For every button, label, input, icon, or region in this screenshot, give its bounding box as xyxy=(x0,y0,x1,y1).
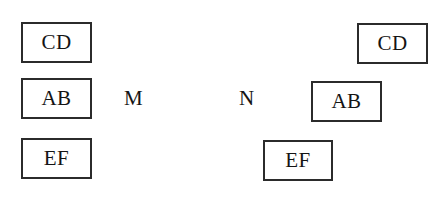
box-label: AB xyxy=(331,91,361,112)
box-left-cd: CD xyxy=(21,22,92,63)
marker-label-m: M xyxy=(124,88,143,109)
diagram-canvas: CD AB EF M N CD AB EF xyxy=(0,0,438,204)
box-label: EF xyxy=(285,150,311,171)
box-label: CD xyxy=(377,33,407,54)
box-label: CD xyxy=(41,32,71,53)
box-right-ab: AB xyxy=(311,81,382,122)
box-right-ef: EF xyxy=(263,140,333,181)
marker-label-n: N xyxy=(239,88,254,109)
box-left-ab: AB xyxy=(21,78,92,119)
box-left-ef: EF xyxy=(21,138,92,179)
box-right-cd: CD xyxy=(357,23,428,64)
box-label: AB xyxy=(41,88,71,109)
box-label: EF xyxy=(44,148,70,169)
